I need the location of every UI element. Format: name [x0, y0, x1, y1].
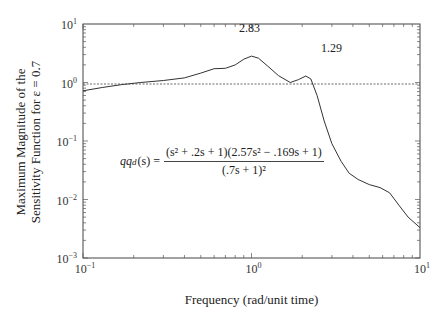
formula-denominator: (.7s + 1)²	[222, 162, 266, 178]
svg-text:100: 100	[246, 261, 262, 276]
svg-text:101: 101	[61, 17, 77, 32]
axis-ticks	[83, 24, 420, 258]
svg-text:10−1: 10−1	[56, 134, 77, 149]
peak-annotation-2: 1.29	[321, 41, 342, 56]
formula-arg: (s) =	[138, 154, 160, 169]
svg-text:100: 100	[61, 76, 77, 91]
sensitivity-curve	[83, 56, 420, 228]
formula-fraction: (s² + .2s + 1)(2.57s² − .169s + 1) (.7s …	[164, 145, 324, 178]
svg-text:10−2: 10−2	[56, 193, 77, 208]
formula-sub: d	[132, 157, 137, 167]
formula-numerator: (s² + .2s + 1)(2.57s² − .169s + 1)	[164, 145, 324, 162]
peak-annotation-1: 2.83	[239, 21, 260, 36]
formula-lhs: qq	[120, 154, 132, 169]
x-axis-label: Frequency (rad/unit time)	[83, 292, 420, 308]
y-axis-label-line1: Maximum Magnitude of the	[13, 61, 28, 223]
transfer-function-formula: qqd(s) = (s² + .2s + 1)(2.57s² − .169s +…	[120, 145, 324, 178]
y-axis-label-line2: Sensitivity Function for ε = 0.7	[28, 61, 43, 223]
plot-frame	[83, 24, 420, 258]
svg-text:101: 101	[414, 261, 430, 276]
svg-text:10−1: 10−1	[75, 261, 96, 276]
